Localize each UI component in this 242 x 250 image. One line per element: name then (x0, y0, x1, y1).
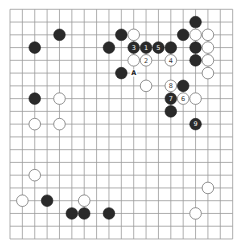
white-stone-icon (202, 29, 214, 41)
white-stone-icon (202, 42, 214, 54)
black-stone (41, 195, 53, 207)
black-stone (54, 29, 66, 41)
white-stone-icon (202, 67, 214, 79)
black-stone (165, 106, 177, 118)
black-stone-icon (190, 55, 202, 67)
white-stone (17, 195, 29, 207)
white-stone (128, 55, 140, 67)
stones-layer: 315248769 (17, 16, 214, 219)
white-stone-icon (29, 118, 41, 130)
black-stone-icon (116, 67, 128, 79)
black-stone (165, 42, 177, 54)
black-stone-icon (177, 29, 189, 41)
black-stone-icon (190, 42, 202, 54)
move-number: 7 (169, 95, 173, 103)
white-stone (202, 182, 214, 194)
black-stone (190, 42, 202, 54)
black-stone (66, 208, 78, 220)
move-number: 1 (144, 44, 148, 52)
white-stone (202, 42, 214, 54)
white-stone-icon (202, 182, 214, 194)
black-stone: 3 (128, 42, 140, 54)
black-stone: 1 (140, 42, 152, 54)
move-number: 9 (193, 120, 197, 128)
white-stone-icon (190, 29, 202, 41)
white-stone (202, 55, 214, 67)
white-stone (29, 169, 41, 181)
black-stone-icon (177, 80, 189, 92)
point-label-a: A (131, 69, 136, 77)
white-stone-icon (128, 55, 140, 67)
white-stone: 4 (165, 55, 177, 67)
black-stone: 7 (165, 93, 177, 105)
white-stone-icon (202, 55, 214, 67)
white-stone (190, 29, 202, 41)
black-stone-icon (41, 195, 53, 207)
white-stone-icon (29, 169, 41, 181)
move-number: 6 (181, 95, 185, 103)
black-stone (177, 29, 189, 41)
white-stone (54, 118, 66, 130)
black-stone (103, 42, 115, 54)
white-stone (202, 29, 214, 41)
black-stone (116, 67, 128, 79)
move-number: 4 (169, 57, 173, 65)
black-stone (190, 55, 202, 67)
black-stone-icon (78, 208, 90, 220)
black-stone (103, 208, 115, 220)
black-stone-icon (165, 106, 177, 118)
white-stone (54, 93, 66, 105)
move-number: 5 (156, 44, 160, 52)
black-stone (78, 208, 90, 220)
move-number: 2 (144, 57, 148, 65)
black-stone-icon (54, 29, 66, 41)
white-stone-icon (54, 93, 66, 105)
white-stone: 2 (140, 55, 152, 67)
black-stone-icon (66, 208, 78, 220)
black-stone (116, 29, 128, 41)
white-stone-icon (128, 29, 140, 41)
black-stone-icon (103, 42, 115, 54)
black-stone-icon (165, 42, 177, 54)
white-stone (140, 80, 152, 92)
black-stone-icon (116, 29, 128, 41)
white-stone: 6 (177, 93, 189, 105)
white-stone-icon (190, 93, 202, 105)
black-stone-icon (29, 93, 41, 105)
white-stone (190, 93, 202, 105)
white-stone-icon (17, 195, 29, 207)
move-number: 8 (169, 82, 173, 90)
point-labels-layer: A (130, 69, 137, 77)
white-stone (78, 195, 90, 207)
black-stone-icon (190, 16, 202, 28)
black-stone: 9 (190, 118, 202, 130)
black-stone (29, 93, 41, 105)
white-stone (29, 118, 41, 130)
white-stone-icon (140, 80, 152, 92)
white-stone: 8 (165, 80, 177, 92)
white-stone (202, 67, 214, 79)
black-stone (29, 42, 41, 54)
white-stone-icon (54, 118, 66, 130)
black-stone-icon (29, 42, 41, 54)
white-stone (128, 29, 140, 41)
black-stone (190, 16, 202, 28)
white-stone (190, 208, 202, 220)
black-stone (177, 80, 189, 92)
move-number: 3 (132, 44, 136, 52)
black-stone-icon (103, 208, 115, 220)
go-board: 315248769 A (0, 0, 242, 250)
white-stone-icon (190, 208, 202, 220)
go-board-diagram: 315248769 A (0, 0, 242, 250)
white-stone-icon (78, 195, 90, 207)
black-stone: 5 (153, 42, 165, 54)
